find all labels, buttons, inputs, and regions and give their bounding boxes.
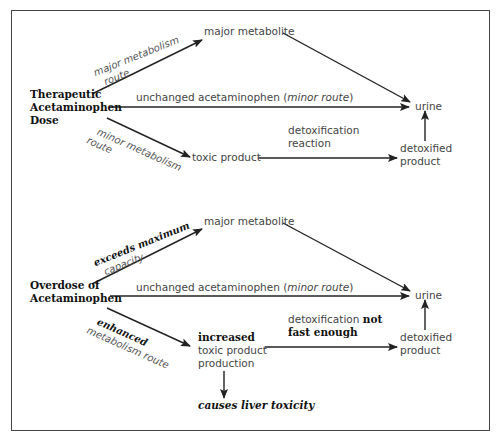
source-line: Overdose of xyxy=(30,279,122,292)
source-line: Therapeutic xyxy=(30,88,122,101)
label-text: detoxification xyxy=(288,313,363,325)
overdose-label: Overdose of Acetaminophen xyxy=(30,279,122,305)
label-line: production xyxy=(198,357,267,370)
unchanged-label-overdose: unchanged acetaminophen (minor route) xyxy=(136,281,353,294)
toxic-product-node: toxic product xyxy=(192,151,261,164)
minor-route-text: minor route xyxy=(287,91,349,103)
label-line-bold: increased xyxy=(198,331,267,344)
major-metabolite-node-overdose: major metabolite xyxy=(204,215,294,228)
source-line: Acetaminophen xyxy=(30,101,122,114)
unchanged-text: unchanged acetaminophen ( xyxy=(136,91,287,103)
unchanged-label: unchanged acetaminophen (minor route) xyxy=(136,91,353,104)
detoxified-product-node: detoxified product xyxy=(400,142,452,168)
label-bold: not xyxy=(363,313,383,325)
minor-route-text: minor route xyxy=(287,281,349,293)
urine-node: urine xyxy=(415,100,442,113)
liver-toxicity-outcome: causes liver toxicity xyxy=(198,399,314,412)
source-line: Dose xyxy=(30,114,122,127)
increased-toxic-node: increased toxic product production xyxy=(198,331,267,370)
therapeutic-dose-label: Therapeutic Acetaminophen Dose xyxy=(30,88,122,127)
label-line: reaction xyxy=(288,137,359,150)
detox-not-fast-label: detoxification not fast enough xyxy=(288,313,382,339)
label-line: detoxified xyxy=(400,331,452,344)
label-line: toxic product xyxy=(198,344,267,357)
label-line: product xyxy=(400,344,452,357)
label-line: detoxification xyxy=(288,124,359,137)
label-bold: fast enough xyxy=(288,326,382,339)
paren: ) xyxy=(349,281,353,293)
urine-node-overdose: urine xyxy=(415,289,442,302)
label-line: detoxified xyxy=(400,142,452,155)
major-metabolite-node: major metabolite xyxy=(204,25,294,38)
paren: ) xyxy=(349,91,353,103)
unchanged-text: unchanged acetaminophen ( xyxy=(136,281,287,293)
source-line: Acetaminophen xyxy=(30,292,122,305)
detox-reaction-label: detoxification reaction xyxy=(288,124,359,150)
detoxified-product-node-overdose: detoxified product xyxy=(400,331,452,357)
label-line: product xyxy=(400,155,452,168)
